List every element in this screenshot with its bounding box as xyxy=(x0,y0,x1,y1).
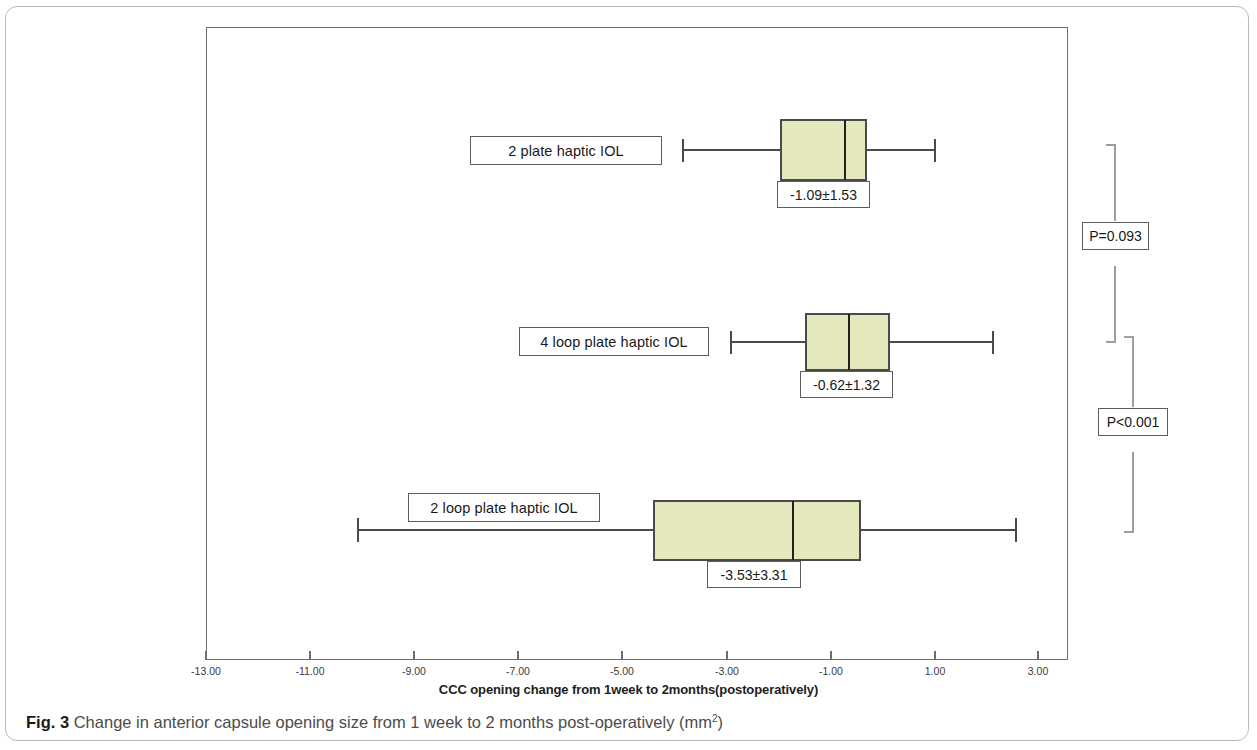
x-tick-label-5: -3.00 xyxy=(715,665,739,677)
value-label-box-3: -3.53±3.31 xyxy=(707,561,801,588)
x-tick-label-2: -9.00 xyxy=(402,665,426,677)
x-tick-label-4: -5.00 xyxy=(610,665,634,677)
value-label-text-2: -0.62±1.32 xyxy=(813,377,880,393)
x-tick-label-7: 1.00 xyxy=(925,665,945,677)
x-tick-label-8: 3.00 xyxy=(1028,665,1048,677)
p-value-box-bottom: P<0.001 xyxy=(1098,408,1168,436)
series-label-box-3: 2 loop plate haptic IOL xyxy=(408,493,600,522)
series-label-box-1: 2 plate haptic IOL xyxy=(470,136,662,165)
value-label-box-2: -0.62±1.32 xyxy=(800,371,893,398)
figure-caption: Fig. 3 Change in anterior capsule openin… xyxy=(26,712,1206,733)
value-label-text-3: -3.53±3.31 xyxy=(721,567,788,583)
p-value-box-top: P=0.093 xyxy=(1082,222,1149,250)
x-tick-label-0: -13.00 xyxy=(191,665,221,677)
value-label-box-1: -1.09±1.53 xyxy=(777,181,870,208)
series-label-text-3: 2 loop plate haptic IOL xyxy=(430,500,577,516)
x-axis-title: CCC opening change from 1week to 2months… xyxy=(0,682,1257,697)
figure-caption-text: Change in anterior capsule opening size … xyxy=(74,713,712,731)
series-label-text-1: 2 plate haptic IOL xyxy=(508,143,623,159)
x-tick-label-3: -7.00 xyxy=(506,665,530,677)
p-value-text-bottom: P<0.001 xyxy=(1107,414,1160,430)
x-tick-label-6: -1.00 xyxy=(819,665,843,677)
series-label-box-2: 4 loop plate haptic IOL xyxy=(519,327,709,356)
figure-caption-number: Fig. 3 xyxy=(26,713,69,731)
x-tick-label-1: -11.00 xyxy=(296,665,325,677)
series-label-text-2: 4 loop plate haptic IOL xyxy=(540,334,687,350)
figure-page: 2 plate haptic IOL 4 loop plate haptic I… xyxy=(0,0,1257,750)
p-value-text-top: P=0.093 xyxy=(1089,228,1142,244)
value-label-text-1: -1.09±1.53 xyxy=(790,187,857,203)
figure-caption-tail: ) xyxy=(718,713,724,731)
